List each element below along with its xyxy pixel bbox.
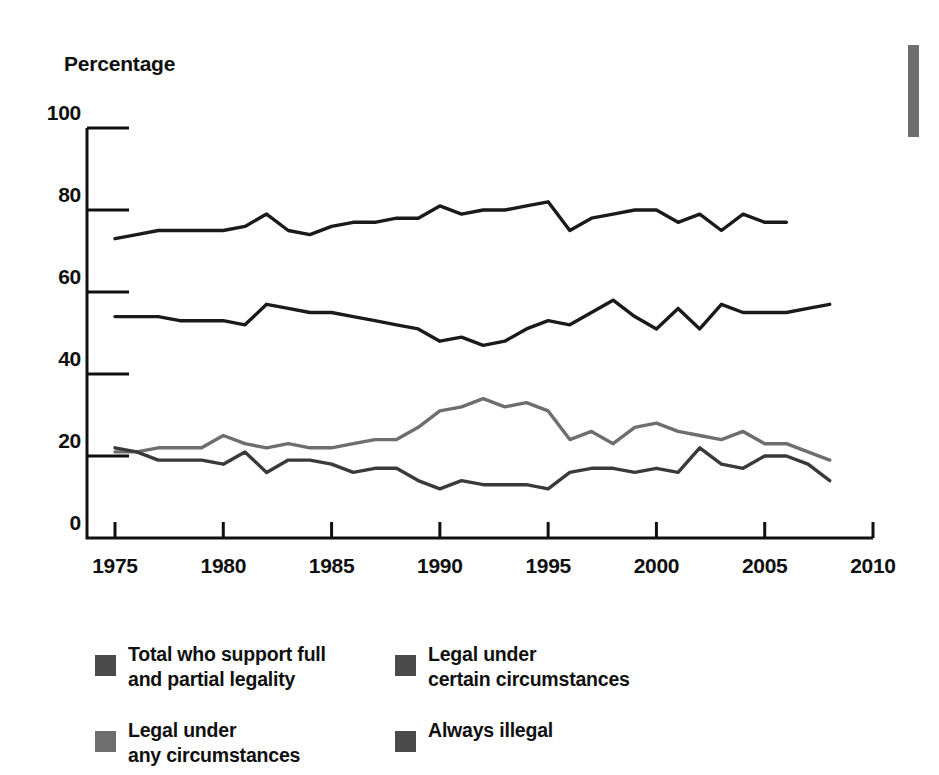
legend-row-bottom: Legal under any circumstances Always ill… [95,718,795,768]
legend-label: Always illegal [428,718,553,743]
y-tick-label: 20 [21,429,81,453]
y-tick-label: 100 [21,101,81,125]
y-tick-label: 40 [21,347,81,371]
y-tick-label: 80 [21,183,81,207]
legend-swatch-icon [395,655,416,676]
x-tick-label: 2005 [725,554,805,578]
series-line-1 [115,300,830,345]
chart-figure: Percentage 020406080100 1975198019851990… [0,0,939,775]
legend-row-top: Total who support full and partial legal… [95,642,795,692]
legend-item-always-illegal[interactable]: Always illegal [395,718,553,752]
legend-item-total-support[interactable]: Total who support full and partial legal… [95,642,395,692]
x-tick-label: 2000 [616,554,696,578]
series-line-3 [115,448,830,489]
x-tick-label: 1980 [183,554,263,578]
legend-item-legal-any[interactable]: Legal under any circumstances [95,718,395,768]
y-tick-label: 0 [21,511,81,535]
series-line-0 [115,202,786,239]
x-tick-label: 1975 [75,554,155,578]
series-line-2 [115,399,830,461]
x-tick-label: 1985 [292,554,372,578]
legend-label: Legal under certain circumstances [428,642,630,692]
legend-spacer [95,692,795,718]
x-tick-label: 1990 [400,554,480,578]
y-tick-label: 60 [21,265,81,289]
legend-swatch-icon [95,655,116,676]
legend-swatch-icon [95,731,116,752]
legend-swatch-icon [395,731,416,752]
x-tick-label: 2010 [833,554,913,578]
plot-area [0,0,939,620]
x-tick-label: 1995 [508,554,588,578]
chart-legend: Total who support full and partial legal… [95,642,795,768]
legend-label: Total who support full and partial legal… [128,642,326,692]
legend-item-legal-certain[interactable]: Legal under certain circumstances [395,642,630,692]
legend-label: Legal under any circumstances [128,718,300,768]
